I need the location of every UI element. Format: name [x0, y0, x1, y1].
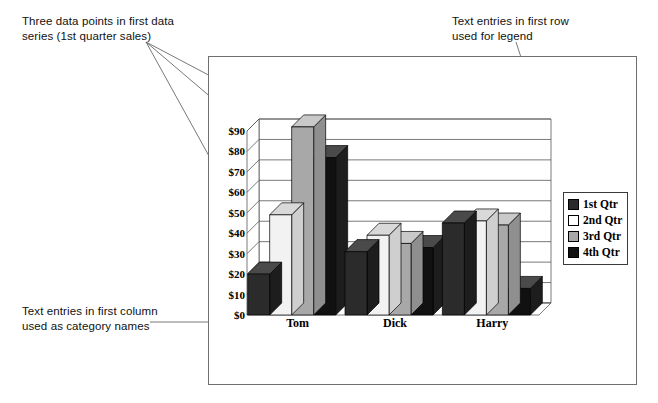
legend-swatch-icon	[568, 215, 579, 226]
legend-swatch-icon	[568, 231, 579, 242]
bar-side	[314, 115, 326, 315]
legend-swatch-icon	[568, 247, 579, 258]
bar-dick-1st-qtr[interactable]	[345, 240, 379, 315]
annotation-first-data-series: Three data points in first data series (…	[22, 14, 174, 44]
category-label-tom: Tom	[286, 316, 309, 331]
annotation-first-row-legend: Text entries in first row used for legen…	[452, 14, 569, 44]
plot-svg	[201, 123, 561, 338]
legend-item-3rd-qtr[interactable]: 3rd Qtr	[568, 228, 622, 244]
bar-side	[367, 240, 379, 315]
bar-harry-1st-qtr[interactable]	[442, 211, 476, 315]
legend-item-4th-qtr[interactable]: 4th Qtr	[568, 244, 622, 260]
legend-item-2nd-qtr[interactable]: 2nd Qtr	[568, 212, 622, 228]
legend-swatch-icon	[568, 199, 579, 210]
legend-label: 4th Qtr	[583, 246, 620, 258]
bar-side	[508, 213, 520, 315]
legend-label: 3rd Qtr	[583, 230, 621, 242]
screenshot-root: Three data points in first data series (…	[0, 0, 658, 403]
category-label-harry: Harry	[476, 316, 508, 331]
legend-label: 2nd Qtr	[583, 214, 622, 226]
category-label-dick: Dick	[383, 316, 407, 331]
bar-tom-1st-qtr[interactable]	[248, 262, 282, 315]
legend-item-1st-qtr[interactable]: 1st Qtr	[568, 196, 622, 212]
bar-side	[486, 209, 498, 315]
bar-front	[345, 252, 367, 315]
bar-front	[248, 274, 270, 315]
bar-side	[411, 231, 423, 315]
bar-side	[292, 203, 304, 315]
plot-area[interactable]	[247, 131, 539, 315]
annotation-first-column-categories: Text entries in first column used as cat…	[22, 304, 158, 334]
bar-front	[442, 223, 464, 315]
bar-side	[464, 211, 476, 315]
legend-label: 1st Qtr	[583, 198, 618, 210]
chart-legend[interactable]: 1st Qtr2nd Qtr3rd Qtr4th Qtr	[563, 192, 628, 265]
bar-side	[389, 223, 401, 315]
